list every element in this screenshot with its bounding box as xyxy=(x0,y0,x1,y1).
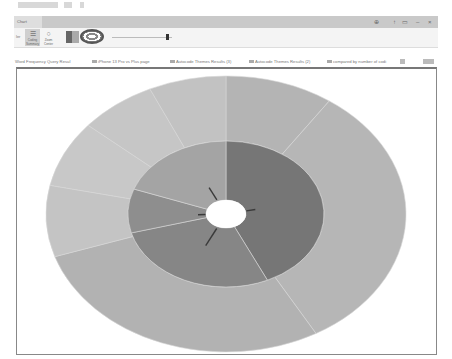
tab-nav-buttons[interactable] xyxy=(423,59,434,64)
blurred-text xyxy=(64,2,72,8)
tab-label: Autocode Themes Results (3) xyxy=(176,59,231,64)
chart-panel xyxy=(16,67,437,355)
doc-tab[interactable]: Word Frequency Query Resul xyxy=(15,59,70,64)
restore-icon[interactable]: ↑ xyxy=(393,16,396,28)
tab-label: Autocode Themes Results (2) xyxy=(255,59,310,64)
color-scheme-icon[interactable] xyxy=(66,31,79,43)
ribbon-tab-chart[interactable]: Chart xyxy=(14,16,42,28)
tab-label: compared by number of codi xyxy=(333,59,386,64)
button-label: Coding Summary xyxy=(26,38,39,46)
zoom-center-button[interactable]: ○ Zoom Center xyxy=(41,29,56,46)
coding-summary-button[interactable]: ☰ Coding Summary xyxy=(25,29,40,46)
minimize-icon[interactable]: – xyxy=(416,16,419,28)
list-icon: ☰ xyxy=(25,29,40,38)
doc-tab[interactable]: Autocode Themes Results (2) xyxy=(249,59,310,64)
help-icon[interactable]: ⊕ xyxy=(374,16,379,28)
ribbon-group-label: ler xyxy=(16,34,20,39)
ribbon-toggle-icon[interactable]: ▭ xyxy=(402,16,408,28)
doc-icon xyxy=(327,60,332,63)
circle-icon: ○ xyxy=(41,29,56,38)
sunburst-icon[interactable] xyxy=(80,29,104,44)
top-strip xyxy=(0,0,452,14)
tab-label: iPhone 13 Pro vs Plus page xyxy=(98,59,150,64)
doc-tab[interactable]: iPhone 13 Pro vs Plus page xyxy=(92,59,150,64)
doc-tab-active[interactable]: compared by number of codi xyxy=(327,59,386,64)
blurred-text xyxy=(80,2,84,8)
doc-icon xyxy=(249,60,254,63)
doc-icon xyxy=(170,60,175,63)
close-tab-icon[interactable] xyxy=(400,59,405,64)
doc-tab[interactable]: Autocode Themes Results (3) xyxy=(170,59,231,64)
button-label: Zoom Center xyxy=(44,38,53,46)
document-tabs: Word Frequency Query Resul iPhone 13 Pro… xyxy=(0,58,452,67)
blurred-text xyxy=(18,2,58,8)
close-icon[interactable]: × xyxy=(428,16,432,28)
sunburst-chart[interactable] xyxy=(17,69,436,354)
doc-icon xyxy=(92,60,97,63)
slider-thumb[interactable] xyxy=(166,34,169,40)
center-hole[interactable] xyxy=(206,200,246,228)
zoom-slider[interactable] xyxy=(112,37,172,38)
